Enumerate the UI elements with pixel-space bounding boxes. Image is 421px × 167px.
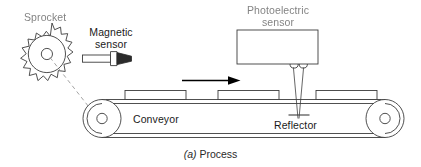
light-beam-rays xyxy=(293,67,303,118)
magnetic-sensor-body xyxy=(83,55,111,62)
conveyor-pulley-left-hub xyxy=(97,113,107,123)
photoelectric-sensor-box xyxy=(237,30,318,64)
magnetic-sensor-label-line2: sensor xyxy=(83,38,139,50)
figure-caption-prefix: (a) xyxy=(184,148,197,160)
reflector-label: Reflector xyxy=(274,119,317,131)
emitter-lens-arc xyxy=(290,64,298,68)
conveyor-label: Conveyor xyxy=(133,113,179,125)
photoelectric-sensor-label-line2: sensor xyxy=(232,16,324,28)
process-diagram: Sprocket Magnetic sensor Photoelectric s… xyxy=(0,0,421,167)
diagram-canvas xyxy=(0,0,421,167)
conveyor-package xyxy=(218,91,279,100)
direction-arrow xyxy=(182,76,241,84)
magnetic-sensor-label-line1: Magnetic xyxy=(83,26,139,38)
magnetic-sensor-tip xyxy=(117,53,132,65)
conveyor-graphic xyxy=(83,91,404,138)
conveyor-pulley-right-hub xyxy=(380,113,390,123)
magnetic-sensor-icon xyxy=(83,52,132,66)
beam-ray-emit xyxy=(293,67,298,118)
photoelectric-sensor-label-line1: Photoelectric xyxy=(232,4,324,16)
magnetic-sensor-collar xyxy=(111,52,118,66)
figure-caption-text: Process xyxy=(199,148,237,160)
conveyor-package xyxy=(316,91,377,100)
beam-ray-return xyxy=(299,67,304,118)
direction-arrow-head xyxy=(228,76,241,84)
sensor-lens-arcs xyxy=(290,64,307,68)
figure-caption: (a) Process xyxy=(0,148,421,160)
conveyor-package xyxy=(125,91,186,100)
sprocket-graphic xyxy=(21,23,73,81)
sprocket-label: Sprocket xyxy=(24,11,66,23)
